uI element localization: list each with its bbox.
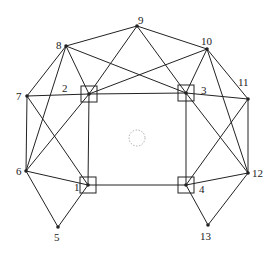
edge-7-2: [27, 94, 89, 96]
node-2: [87, 92, 91, 96]
edge-2-3: [89, 93, 186, 94]
node-label-3: 3: [201, 84, 207, 96]
node-6: [24, 169, 28, 173]
edge-9-2: [89, 26, 137, 94]
edge-10-12: [207, 49, 248, 173]
edge-9-10: [137, 26, 207, 49]
node-label-1: 1: [74, 181, 80, 193]
node-label-7: 7: [16, 90, 22, 102]
edge-8-7: [27, 46, 66, 96]
edge-6-2: [26, 94, 89, 171]
edge-6-5: [26, 171, 58, 227]
node-12: [246, 171, 250, 175]
node-10: [205, 47, 209, 51]
node-boxes: [80, 85, 194, 193]
edge-2-1: [88, 94, 89, 185]
node-label-6: 6: [16, 165, 22, 177]
edge-3-11: [186, 93, 248, 99]
node-11: [246, 97, 250, 101]
node-8: [64, 44, 68, 48]
edge-7-6: [26, 96, 27, 171]
node-5: [56, 225, 60, 229]
node-label-12: 12: [252, 167, 263, 179]
node-label-11: 11: [238, 76, 249, 88]
node-13: [206, 223, 210, 227]
edge-4-13: [186, 185, 208, 225]
node-label-5: 5: [54, 231, 60, 243]
edge-8-6: [26, 46, 66, 171]
graph-nodes: [24, 24, 250, 229]
node-4: [184, 183, 188, 187]
node-label-4: 4: [199, 183, 205, 195]
graph-diagram: 12345678910111213: [0, 0, 276, 257]
node-label-13: 13: [200, 230, 212, 242]
edge-3-12: [186, 93, 248, 173]
node-label-8: 8: [56, 39, 62, 51]
node-7: [25, 94, 29, 98]
node-3: [184, 91, 188, 95]
node-1: [86, 183, 90, 187]
node-labels: 12345678910111213: [16, 14, 263, 243]
graph-edges: [26, 26, 248, 227]
node-label-9: 9: [138, 14, 144, 26]
edge-1-5: [58, 185, 88, 227]
node-label-10: 10: [201, 35, 213, 47]
edge-12-13: [208, 173, 248, 225]
edge-11-4: [186, 99, 248, 185]
edge-4-12: [186, 173, 248, 185]
edge-8-9: [66, 26, 137, 46]
center-marker: [129, 130, 145, 146]
node-label-2: 2: [62, 82, 68, 94]
edge-10-2: [89, 49, 207, 94]
edge-10-11: [207, 49, 248, 99]
